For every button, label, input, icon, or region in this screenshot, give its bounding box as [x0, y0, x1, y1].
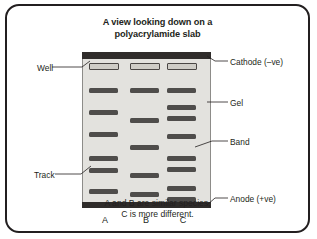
gel-well-b [130, 63, 160, 70]
callout-band: Band [230, 137, 250, 147]
gel-band [89, 189, 118, 194]
gel-lane-a: A [88, 52, 122, 208]
gel-band [167, 116, 196, 121]
callout-gel: Gel [230, 98, 243, 108]
gel-band [130, 173, 159, 178]
figure-title-line-2: polyacrylamide slab [7, 29, 308, 41]
gel-band [89, 110, 118, 115]
gel-slab: A B C [82, 52, 211, 208]
figure-frame: A view looking down on a polyacrylamide … [5, 4, 310, 233]
figure-title: A view looking down on a polyacrylamide … [7, 17, 308, 40]
gel-band [89, 88, 118, 93]
callout-cathode: Cathode (–ve) [230, 57, 283, 67]
callout-track: Track [34, 170, 55, 180]
gel-well-c [167, 63, 197, 70]
gel-band [89, 132, 118, 137]
gel-band [167, 167, 196, 172]
gel-band [130, 192, 159, 197]
gel-well-a [89, 63, 119, 70]
gel-lane-b: B [129, 52, 163, 208]
gel-band [130, 145, 159, 150]
gel-band [167, 88, 196, 93]
gel-band [130, 88, 159, 93]
gel-band [89, 168, 118, 173]
gel-band [130, 118, 159, 123]
gel-band [167, 156, 196, 161]
callout-well: Well [37, 63, 53, 73]
gel-band [167, 134, 196, 139]
figure-caption-line-1: A and B are similar species, [7, 198, 308, 209]
figure-caption-line-2: C is more different. [7, 209, 308, 220]
gel-band [89, 156, 118, 161]
figure-caption: A and B are similar species, C is more d… [7, 198, 308, 219]
gel-band [167, 105, 196, 110]
figure-title-line-1: A view looking down on a [7, 17, 308, 29]
gel-lane-c: C [166, 52, 200, 208]
gel-band [167, 186, 196, 191]
